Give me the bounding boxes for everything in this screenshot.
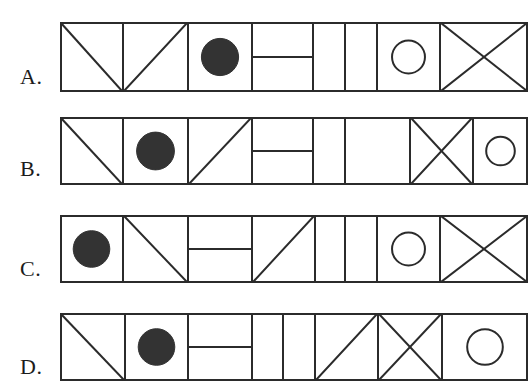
- cell-d-2-filled-circle: [138, 329, 175, 366]
- cell-d-6-diagonal-bottom-left-to-top-right: [316, 314, 377, 380]
- cell-c-7-open-circle: [392, 233, 425, 266]
- cell-b-3-diagonal-bottom-left-to-top-right: [189, 118, 251, 184]
- cell-c-4-diagonal-bottom-left-to-top-right: [253, 216, 314, 282]
- cell-c-2-diagonal-top-left-to-bottom-right: [124, 216, 187, 282]
- cell-a-3-filled-circle: [201, 38, 238, 75]
- cell-a-1-diagonal-top-left-to-bottom-right: [61, 23, 122, 91]
- cell-c-8-crossed-diagonals: [441, 216, 527, 282]
- option-label-a: A.: [20, 64, 42, 90]
- cell-a-8-crossed-diagonals: [441, 23, 527, 91]
- cell-d-7-crossed-diagonals: [379, 314, 441, 380]
- cell-a-2-diagonal-top-right-to-bottom-left: [124, 23, 187, 91]
- option-label-c: C.: [20, 256, 41, 282]
- option-strip-d[interactable]: [60, 313, 528, 381]
- option-strip-b[interactable]: [60, 117, 528, 185]
- cell-b-2-filled-circle: [137, 132, 175, 170]
- cell-b-1-diagonal-top-left-to-bottom-right: [61, 118, 122, 184]
- cell-b-8-open-circle: [486, 137, 515, 166]
- option-strip-a[interactable]: [60, 22, 528, 92]
- cell-a-7-open-circle: [392, 41, 425, 74]
- option-label-d: D.: [20, 354, 42, 380]
- cell-d-8-open-circle: [467, 329, 503, 365]
- option-strip-c[interactable]: [60, 215, 528, 283]
- cell-b-7-crossed-diagonals: [411, 118, 472, 184]
- cell-d-1-diagonal-top-left-to-bottom-right: [61, 314, 124, 380]
- option-label-b: B.: [20, 156, 41, 182]
- cell-c-1-filled-circle: [73, 231, 110, 268]
